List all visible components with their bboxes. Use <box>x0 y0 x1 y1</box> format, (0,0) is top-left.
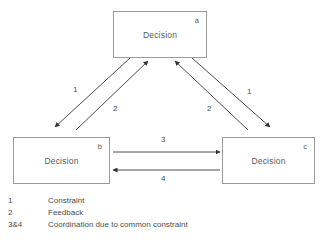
legend-key: 3&4 <box>8 219 42 231</box>
edge-label-c-to-a: 2 <box>207 104 211 113</box>
decision-node-a: a Decision <box>113 11 207 58</box>
legend-key: 2 <box>8 207 42 219</box>
decision-node-a-tag: a <box>195 16 199 25</box>
decision-node-b: b Decision <box>13 137 110 184</box>
legend-row: 2 Feedback <box>8 207 318 219</box>
edge-label-b-to-c: 3 <box>161 135 165 144</box>
decision-network-diagram: a Decision b Decision c Decision 1 2 1 2… <box>0 0 326 242</box>
edge-label-b-to-a: 2 <box>113 104 117 113</box>
edge-label-c-to-b: 4 <box>161 174 165 183</box>
edge-a-to-b <box>55 58 130 127</box>
legend: 1 Constraint 2 Feedback 3&4 Coordination… <box>8 195 318 231</box>
legend-key: 1 <box>8 195 42 207</box>
legend-description: Feedback <box>48 207 83 219</box>
decision-node-b-tag: b <box>98 142 102 151</box>
legend-row: 1 Constraint <box>8 195 318 207</box>
edge-c-to-a <box>175 61 248 130</box>
decision-node-c: c Decision <box>222 137 315 184</box>
edge-label-a-to-b: 1 <box>73 85 77 94</box>
decision-node-c-tag: c <box>303 142 307 151</box>
edge-a-to-c <box>192 58 270 127</box>
decision-node-c-label: Decision <box>223 156 314 166</box>
legend-row: 3&4 Coordination due to common constrain… <box>8 219 318 231</box>
decision-node-a-label: Decision <box>114 30 206 40</box>
edge-b-to-a <box>76 61 148 130</box>
decision-node-b-label: Decision <box>14 156 109 166</box>
legend-description: Coordination due to common constraint <box>48 219 188 231</box>
edge-label-a-to-c: 1 <box>247 87 251 96</box>
legend-description: Constraint <box>48 195 84 207</box>
